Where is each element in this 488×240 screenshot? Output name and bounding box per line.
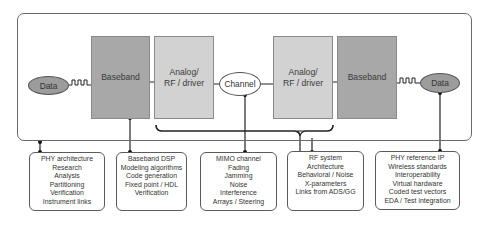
info-line: Modeling algorithms [121,164,183,173]
info-box-phy-architecture: PHY architecture Research Analysis Parti… [29,152,105,211]
info-line: X-parameters [305,180,347,189]
info-line: Noise [230,181,248,190]
info-line: Partitioning [50,181,84,190]
info-line: Fading [228,164,249,173]
info-line: Virtual hardware [392,180,442,189]
info-box-phy-reference-ip: PHY reference IP Wireless standards Inte… [375,151,460,210]
info-line: Instrument links [43,198,91,207]
info-line: Wireless standards [388,163,447,172]
tx-data-label: Data [40,81,58,91]
info-line: Architecture [307,163,344,172]
info-line: EDA / Test integration [384,197,450,206]
tx-baseband-label: Baseband [101,72,140,83]
info-line: Analysis [54,172,80,181]
info-line: Verification [135,189,169,198]
info-line: Fixed point / HDL [125,181,178,190]
info-line: Arrays / Steering [213,198,264,207]
info-line: Interoperability [395,171,440,180]
info-line: Code generation [126,172,177,181]
info-box-mimo-channel: MIMO channel Fading Jamming Noise Interf… [200,152,277,211]
tx-baseband-block: Baseband [91,36,150,119]
info-line: Research [52,164,82,173]
info-line: Links from ADS/GG [295,188,355,197]
rx-baseband-label: Baseband [348,72,387,83]
rx-data-label: Data [431,78,449,88]
info-line: Baseband DSP [128,155,175,164]
info-box-baseband-dsp: Baseband DSP Modeling algorithms Code ge… [116,152,187,211]
rx-analog-block: Analog/ RF / driver [273,36,333,119]
tx-analog-line-1: Analog/ [164,67,204,78]
info-line: Coded test vectors [389,188,446,197]
rx-analog-line-2: RF / driver [283,78,323,89]
tx-analog-line-2: RF / driver [164,78,204,89]
rx-data-node: Data [420,73,460,93]
channel-node: Channel [219,72,261,96]
tx-data-node: Data [28,76,69,95]
rx-baseband-block: Baseband [337,36,397,119]
info-line: Behavioral / Noise [298,171,354,180]
tx-analog-block: Analog/ RF / driver [154,36,214,119]
channel-label: Channel [224,79,255,89]
info-line: Interference [220,189,257,198]
info-line: PHY reference IP [391,154,445,163]
info-line: PHY architecture [41,155,93,164]
info-box-rf-system: RF system Architecture Behavioral / Nois… [287,151,364,211]
info-line: Jamming [225,172,253,181]
info-line: Verification [50,189,84,198]
info-line: MIMO channel [216,155,261,164]
info-line: RF system [309,154,342,163]
rx-analog-line-1: Analog/ [283,67,323,78]
